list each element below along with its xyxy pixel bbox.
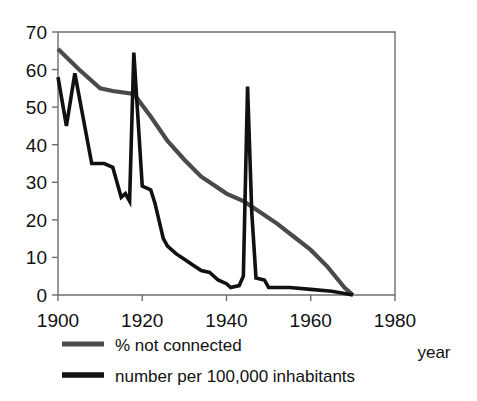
y-tick-label: 30 [26,172,47,193]
y-tick-label: 70 [26,22,47,43]
y-tick-label: 60 [26,60,47,81]
chart-legend: % not connected number per 100,000 inhab… [62,336,355,386]
legend-label-number-per-100000: number per 100,000 inhabitants [115,367,355,386]
y-tick-label: 50 [26,97,47,118]
x-axis-ticks [58,295,395,301]
chart-canvas: 010203040506070 19001920194019601980 yea… [0,0,477,401]
x-tick-label: 1920 [121,310,163,331]
y-axis-tick-labels: 010203040506070 [26,22,47,306]
x-axis-tick-labels: 19001920194019601980 [37,310,416,331]
y-tick-label: 10 [26,247,47,268]
x-tick-label: 1940 [205,310,247,331]
y-axis-ticks [52,32,58,295]
legend-label-pct-not-connected: % not connected [115,336,242,355]
y-tick-label: 0 [36,285,47,306]
y-tick-label: 40 [26,135,47,156]
x-tick-label: 1960 [290,310,332,331]
series-layer [58,49,353,295]
x-tick-label: 1980 [374,310,416,331]
line-chart: 010203040506070 19001920194019601980 yea… [0,0,477,401]
x-tick-label: 1900 [37,310,79,331]
x-axis-title: year [417,343,450,362]
y-tick-label: 20 [26,210,47,231]
series-not-connected [58,49,353,295]
